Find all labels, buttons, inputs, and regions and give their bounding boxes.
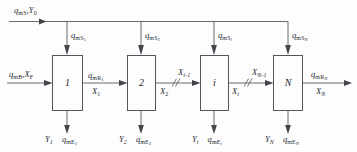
connector-label-2-i-bottom: X2 [160,87,168,96]
bottom-label-i: YiqmEi [192,135,222,144]
bottom-label-N-q-sub2: N [296,139,299,145]
bottom-label-2-y-sub: 2 [124,139,127,145]
feed-arrowhead-2 [138,45,144,55]
top-inlet-y-sub: 0 [34,10,37,16]
feed-label-N-sub: mS [296,35,304,41]
left-inlet-x-sub: F [30,74,33,80]
bottom-label-1-y-sub: 1 [50,139,53,145]
right-outlet-x-sub: N [321,91,325,97]
bottom-label-N-y-sub: N [270,139,274,145]
bottom-label-N: YNqmEN [265,135,299,144]
connector-1-2-bottom-sub: 1 [97,91,100,97]
connector-2-i-top-sub: i-1 [183,72,190,78]
stage-number-2: 2 [127,78,156,88]
feed-label-1-sub: mS [75,35,83,41]
connector-i-N-top-sub: N-1 [257,72,266,78]
top-inlet-label: qmS,Y0 [14,6,37,15]
feed-label-i-sub: mS [222,35,230,41]
bottom-outlet-arrowhead-N [285,125,291,134]
connector-label-i-N-bottom: Xi [232,87,239,96]
bottom-label-2-q-sub: mE [140,139,149,145]
bottom-label-1-q-sub2: 1 [75,139,77,145]
left-inlet-q-sub: mB [13,74,22,80]
stage-number-N: N [273,78,303,88]
right-outlet-q-sub: mR [315,74,324,80]
feed-label-N-sub2: N [305,35,308,41]
cascade-diagram: qmS,Y0 qmS1 qmS2 qmSi qmSN qmB,XF 1 2 i … [0,0,357,152]
connector-2-i-bottom-sub: 2 [165,91,168,97]
bottom-label-1-q-sub: mE [66,139,75,145]
feed-arrowhead-N [285,45,291,55]
bottom-label-1: Y1qmE1 [45,135,77,144]
bottom-label-i-q-sub: mE [212,139,221,145]
connector-label-1-2-top: qmR1 [88,71,104,80]
bottom-label-2: Y2qmE2 [119,135,151,144]
connector-i-N-bottom-sub: i [237,91,239,97]
right-outlet-label-top: qmRN [311,70,327,79]
bottom-outlet-arrowhead-i [211,125,217,134]
connector-1-2-top-sub2: 1 [101,75,103,81]
bottom-outlet-arrowhead-2 [138,125,144,134]
right-outlet-q-sub2: N [324,74,327,80]
left-inlet-label: qmB,XF [9,70,33,79]
feed-label-2-sub: mS [149,35,157,41]
connector-label-2-i-top: Xi-1 [178,68,190,77]
bottom-outlet-arrowhead-1 [64,125,70,134]
left-inlet-x: X [24,69,29,79]
stage-number-i: i [200,78,229,88]
feed-label-N: qmSN [292,31,308,40]
stage-number-1: 1 [52,78,83,88]
feed-label-1-sub2: 1 [84,35,86,41]
bottom-label-i-y-sub: i [197,139,199,145]
top-inlet-q-sub: mS [18,10,26,16]
connector-1-2-top-sub: mR [92,75,101,81]
connector-label-1-2-bottom: X1 [92,87,100,96]
connector-label-i-N-top: XN-1 [252,68,267,77]
right-outlet-label-bottom: XN [316,87,325,96]
bottom-label-i-q-sub2: i [221,139,222,145]
feed-label-i-sub2: i [231,35,232,41]
feed-label-1: qmS1 [71,31,86,40]
feed-label-i: qmSi [218,31,232,40]
feed-arrowhead-i [211,45,217,55]
feed-label-2: qmS2 [145,31,160,40]
bottom-label-2-q-sub2: 2 [149,139,151,145]
top-inlet-arrowhead [39,19,47,25]
bottom-label-N-q-sub: mE [287,139,296,145]
feed-arrowhead-1 [64,45,70,55]
feed-label-2-sub2: 2 [158,35,160,41]
top-inlet-y: Y [29,5,34,15]
right-outlet-arrowhead [344,80,352,86]
